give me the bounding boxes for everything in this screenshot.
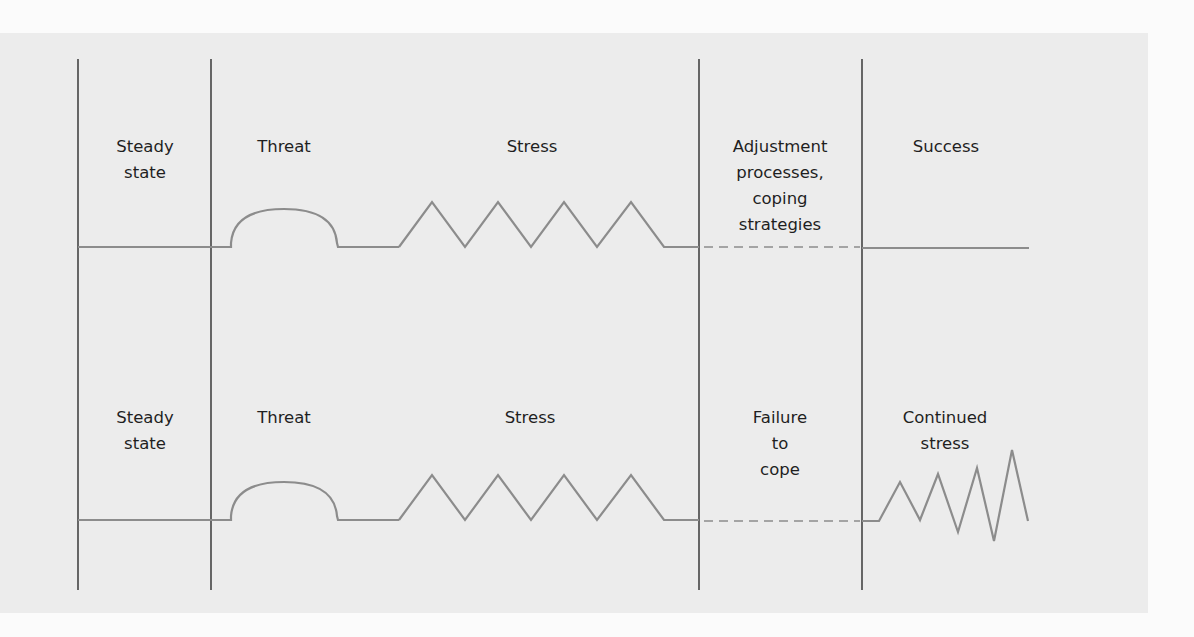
bottom-trace-continued-stress-zigzag: [862, 450, 1028, 541]
top-trace-stress-zigzag: [399, 202, 699, 247]
bottom-label-stress: Stress: [505, 405, 556, 431]
stress-diagram: [0, 0, 1194, 637]
top-label-adjustment: Adjustment processes, coping strategies: [733, 134, 828, 238]
top-label-success: Success: [913, 134, 979, 160]
bottom-label-failure: Failure to cope: [753, 405, 807, 483]
top-trace: [78, 202, 1029, 248]
bottom-label-continued-stress: Continued stress: [903, 405, 988, 457]
bottom-trace: [78, 450, 1028, 541]
bottom-label-steady-state: Steady state: [116, 405, 173, 457]
page: Steady state Threat Stress Adjustment pr…: [0, 0, 1194, 637]
top-trace-steady-threat: [78, 209, 399, 247]
bottom-label-threat: Threat: [257, 405, 311, 431]
top-label-threat: Threat: [257, 134, 311, 160]
bottom-trace-stress-zigzag: [399, 475, 699, 520]
top-label-stress: Stress: [507, 134, 558, 160]
bottom-trace-steady-threat: [78, 482, 399, 520]
top-label-steady-state: Steady state: [116, 134, 173, 186]
